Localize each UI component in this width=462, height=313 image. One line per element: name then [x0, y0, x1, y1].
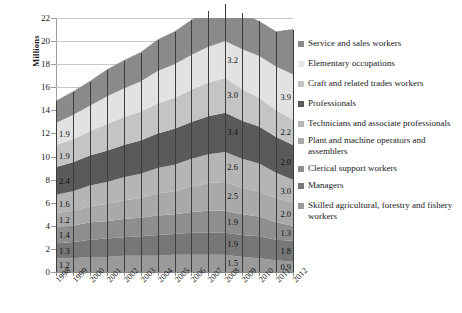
- legend-label: Skilled agricultural, forestry and fishe…: [308, 200, 462, 222]
- category-separator: [293, 30, 294, 272]
- data-label: 1.3: [59, 246, 70, 255]
- category-separator: [208, 11, 209, 272]
- legend-label: Professionals: [308, 98, 356, 109]
- legend-item[interactable]: Technicians and associate professionals: [298, 118, 462, 129]
- data-label: 1.9: [59, 130, 70, 139]
- y-axis-label: 10: [0, 152, 50, 161]
- y-axis-label: 2: [0, 244, 50, 253]
- legend-swatch-icon: [298, 81, 304, 87]
- legend-label: Craft and related trades workers: [308, 78, 423, 89]
- legend-swatch-icon: [298, 166, 304, 172]
- y-axis-label: 20: [0, 37, 50, 46]
- legend-label: Managers: [308, 180, 344, 191]
- data-label: 2.6: [227, 163, 238, 172]
- category-separator: [90, 82, 91, 273]
- legend-swatch-icon: [298, 121, 304, 127]
- legend-item[interactable]: Professionals: [298, 98, 462, 109]
- data-label: 2.0: [280, 210, 291, 219]
- legend-item[interactable]: Plant and machine operators and assemble…: [298, 135, 462, 157]
- data-label: 1.3: [280, 229, 291, 238]
- legend-item[interactable]: Skilled agricultural, forestry and fishe…: [298, 200, 462, 222]
- legend-swatch-icon: [298, 61, 304, 67]
- legend-label: Clerical support workers: [308, 163, 397, 174]
- y-axis-title: Millions: [31, 11, 41, 91]
- category-separator: [141, 53, 142, 272]
- y-axis-label: 8: [0, 175, 50, 184]
- legend-label: Elementary occupations: [308, 58, 395, 69]
- category-separator: [124, 61, 125, 272]
- category-separator: [107, 70, 108, 272]
- y-axis-label: 22: [0, 14, 50, 23]
- data-label: 1.9: [227, 218, 238, 227]
- data-label: 2.4: [59, 177, 70, 186]
- category-separator: [175, 32, 176, 272]
- legend-swatch-icon: [298, 183, 304, 189]
- legend-swatch-icon: [298, 203, 304, 209]
- legend-item[interactable]: Craft and related trades workers: [298, 78, 462, 89]
- plot-area: 1.21.31.41.21.62.41.91.91.51.91.92.52.63…: [56, 18, 293, 272]
- data-label: 1.9: [227, 239, 238, 248]
- y-axis-label: 0: [0, 268, 50, 277]
- data-label: 3.4: [227, 128, 238, 137]
- y-axis-label: 18: [0, 60, 50, 69]
- legend-item[interactable]: Elementary occupations: [298, 58, 462, 69]
- legend-swatch-icon: [298, 41, 304, 47]
- legend: Service and sales workersElementary occu…: [298, 38, 462, 231]
- legend-label: Technicians and associate professionals: [308, 118, 451, 129]
- category-separator: [191, 20, 192, 272]
- data-label: 1.9: [59, 152, 70, 161]
- data-label: 2.0: [280, 158, 291, 167]
- y-axis-label: 4: [0, 221, 50, 230]
- legend-label: Plant and machine operators and assemble…: [308, 135, 462, 157]
- category-separator: [56, 101, 57, 272]
- data-label: 1.4: [59, 231, 70, 240]
- data-label: 3.0: [227, 91, 238, 100]
- data-label: 1.2: [59, 216, 70, 225]
- category-separator: [73, 92, 74, 272]
- legend-swatch-icon: [298, 101, 304, 107]
- legend-item[interactable]: Service and sales workers: [298, 38, 462, 49]
- category-separator: [276, 32, 277, 272]
- y-axis-label: 16: [0, 83, 50, 92]
- category-separator: [242, 13, 243, 272]
- legend-item[interactable]: Clerical support workers: [298, 163, 462, 174]
- y-axis-label: 6: [0, 198, 50, 207]
- legend-item[interactable]: Managers: [298, 180, 462, 191]
- data-label: 1.6: [59, 200, 70, 209]
- data-label: 2.2: [280, 128, 291, 137]
- y-axis-label: 14: [0, 106, 50, 115]
- category-separator: [158, 40, 159, 272]
- category-separator: [225, 4, 226, 272]
- area-chart: Millions 1.21.31.41.21.62.41.91.91.51.91…: [0, 0, 462, 313]
- category-separator: [259, 21, 260, 272]
- data-label: 3.2: [227, 55, 238, 64]
- legend-label: Service and sales workers: [308, 38, 401, 49]
- data-label: 3.9: [280, 93, 291, 102]
- data-label: 3.0: [280, 187, 291, 196]
- data-label: 2.5: [227, 192, 238, 201]
- legend-swatch-icon: [298, 138, 304, 144]
- y-axis-label: 12: [0, 129, 50, 138]
- data-label: 1.8: [280, 247, 291, 256]
